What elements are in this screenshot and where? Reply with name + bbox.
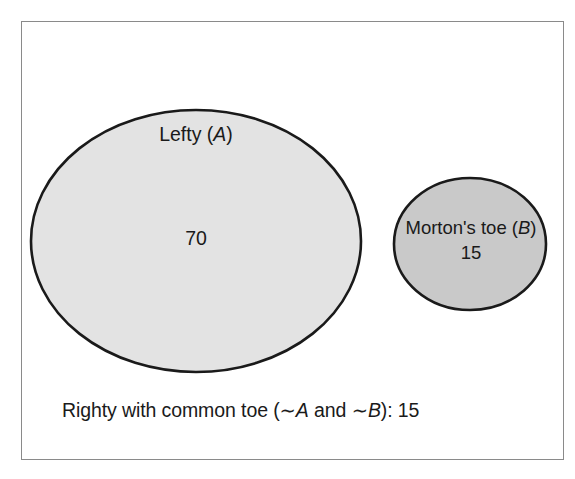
caption-conjunction: and — [309, 399, 352, 421]
caption-not-b-tilde: ∼ — [352, 399, 368, 421]
set-a-name: Lefty — [159, 123, 201, 145]
venn-diagram-figure: Lefty (A) 70 Morton's toe (B) 15 Righty … — [0, 0, 575, 479]
set-b-label: Morton's toe (B) — [388, 218, 554, 239]
caption-not-a-tilde: ∼ — [280, 399, 296, 421]
complement-caption: Righty with common toe (∼A and ∼B): 15 — [62, 400, 419, 422]
set-b-count: 15 — [388, 243, 554, 264]
set-a-label: Lefty (A) — [0, 124, 392, 146]
caption-suffix: ): — [381, 399, 398, 421]
caption-prefix: Righty with common toe ( — [62, 399, 280, 421]
caption-not-a-symbol: A — [296, 399, 309, 421]
set-b-symbol: B — [518, 217, 530, 238]
caption-not-b-symbol: B — [368, 399, 381, 421]
caption-count: 15 — [398, 399, 420, 421]
set-b-name: Morton's toe — [405, 217, 506, 238]
set-a-count: 70 — [0, 228, 392, 250]
set-a-symbol: A — [213, 123, 226, 145]
